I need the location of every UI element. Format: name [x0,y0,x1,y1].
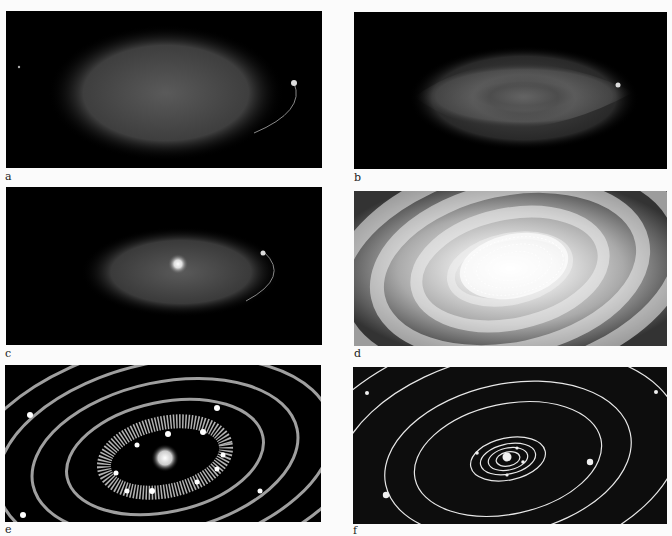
diffuse-cloud-illustration [6,11,322,168]
core-forming-illustration [6,187,322,345]
panel-label-c: c [5,348,11,359]
panel-label-e: e [5,524,12,535]
panel-label-a: a [5,171,12,182]
panel-f [353,367,667,524]
panel-b [354,12,667,169]
panel-c [6,187,322,345]
planetary-orbits-illustration [353,367,667,524]
panel-label-d: d [354,348,361,359]
planetesimal-rings-illustration [5,365,321,522]
panel-label-f: f [353,525,357,536]
panel-e [5,365,321,522]
panel-a [6,11,322,168]
flattening-cloud-illustration [354,12,667,169]
panel-d [354,191,667,346]
panel-label-b: b [354,172,361,183]
swirling-disk-illustration [354,191,667,346]
